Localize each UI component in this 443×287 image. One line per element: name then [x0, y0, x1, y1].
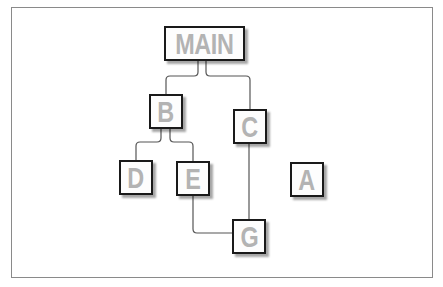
node-c-label: C — [242, 110, 259, 144]
node-c[interactable]: C — [233, 109, 267, 144]
edge-b-d — [136, 129, 161, 160]
node-e-label: E — [185, 162, 200, 196]
edge-e-g — [193, 196, 232, 233]
node-b[interactable]: B — [149, 94, 183, 129]
node-a[interactable]: A — [290, 162, 324, 197]
edge-b-e — [170, 129, 193, 161]
edge-main-c — [206, 61, 250, 109]
node-d[interactable]: D — [119, 160, 153, 195]
node-main[interactable]: MAIN — [164, 26, 245, 61]
node-b-label: B — [158, 95, 175, 129]
node-main-label: MAIN — [175, 27, 233, 61]
node-e[interactable]: E — [176, 161, 210, 196]
node-a-label: A — [299, 163, 316, 197]
node-d-label: D — [128, 161, 145, 195]
node-g[interactable]: G — [232, 219, 266, 254]
edge-main-b — [166, 61, 198, 94]
node-g-label: G — [240, 220, 258, 254]
